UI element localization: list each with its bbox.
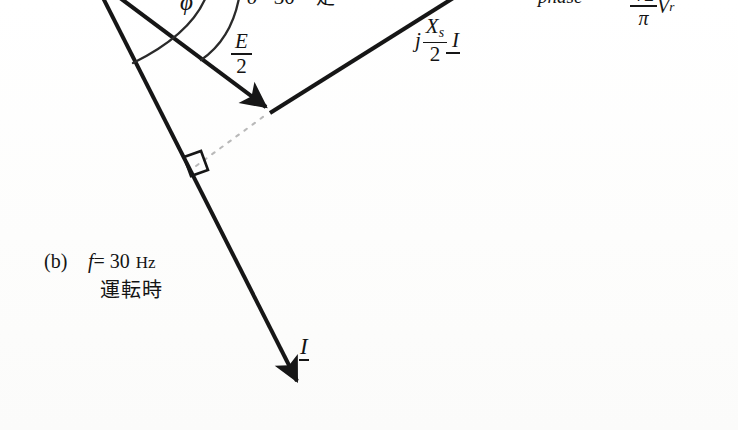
jxi-current-symbol: I	[447, 30, 459, 51]
xs-over-2-fraction: Xs 2	[423, 16, 447, 66]
phase-dash: —	[520, 0, 538, 7]
caption-marker: (b)	[44, 251, 88, 271]
delta-angle-label: δ= 30°定	[247, 0, 335, 8]
xs-denominator: 2	[427, 44, 444, 65]
xs-numerator: X	[426, 14, 439, 38]
vr-variable: V	[657, 0, 669, 16]
xs-numerator-group: Xs	[423, 16, 447, 41]
phi-angle-label: ϕ	[180, 0, 193, 14]
phi-arc-inner	[133, 0, 210, 63]
vr-subscript: r	[669, 0, 674, 13]
vr-expression-label: √2 π Vr	[630, 0, 674, 28]
frequency-unit: Hz	[130, 254, 156, 271]
vr-numerator: √2	[630, 0, 657, 4]
phasor-diagram-graphic	[0, 0, 738, 430]
j-operator: j	[415, 30, 423, 51]
e-denominator: 2	[233, 56, 250, 77]
figure-caption: (b) f= 30Hz 運転時	[44, 251, 163, 300]
xs-subscript: s	[439, 25, 444, 40]
vr-fraction: √2 π	[630, 0, 657, 28]
frequency-value: = 30	[94, 251, 130, 271]
dashed-projection-line	[196, 114, 267, 166]
e-over-2-fraction: E 2	[232, 31, 251, 77]
phase-label: —phase	[520, 0, 582, 6]
delta-equals: = 30	[257, 0, 295, 9]
delta-symbol: δ	[247, 0, 257, 9]
current-symbol: I	[300, 335, 308, 358]
e-numerator: E	[232, 31, 251, 52]
figure-canvas: δ= 30°定 —phase √2 π Vr E 2 j Xs 2 I ϕ	[0, 0, 738, 430]
current-phasor-label: I	[300, 335, 308, 358]
j-xs-current-label: j Xs 2 I	[415, 16, 459, 66]
right-angle-marker	[184, 151, 208, 176]
caption-line-2-jp: 運転時	[44, 271, 163, 300]
e-over-2-label: E 2	[232, 31, 251, 77]
delta-jp-fragment: 定	[303, 0, 335, 8]
caption-line-1: (b) f= 30Hz	[44, 251, 163, 271]
phase-text: phase	[538, 0, 582, 7]
vr-denominator: π	[635, 8, 651, 28]
delta-unit: °	[295, 0, 303, 9]
